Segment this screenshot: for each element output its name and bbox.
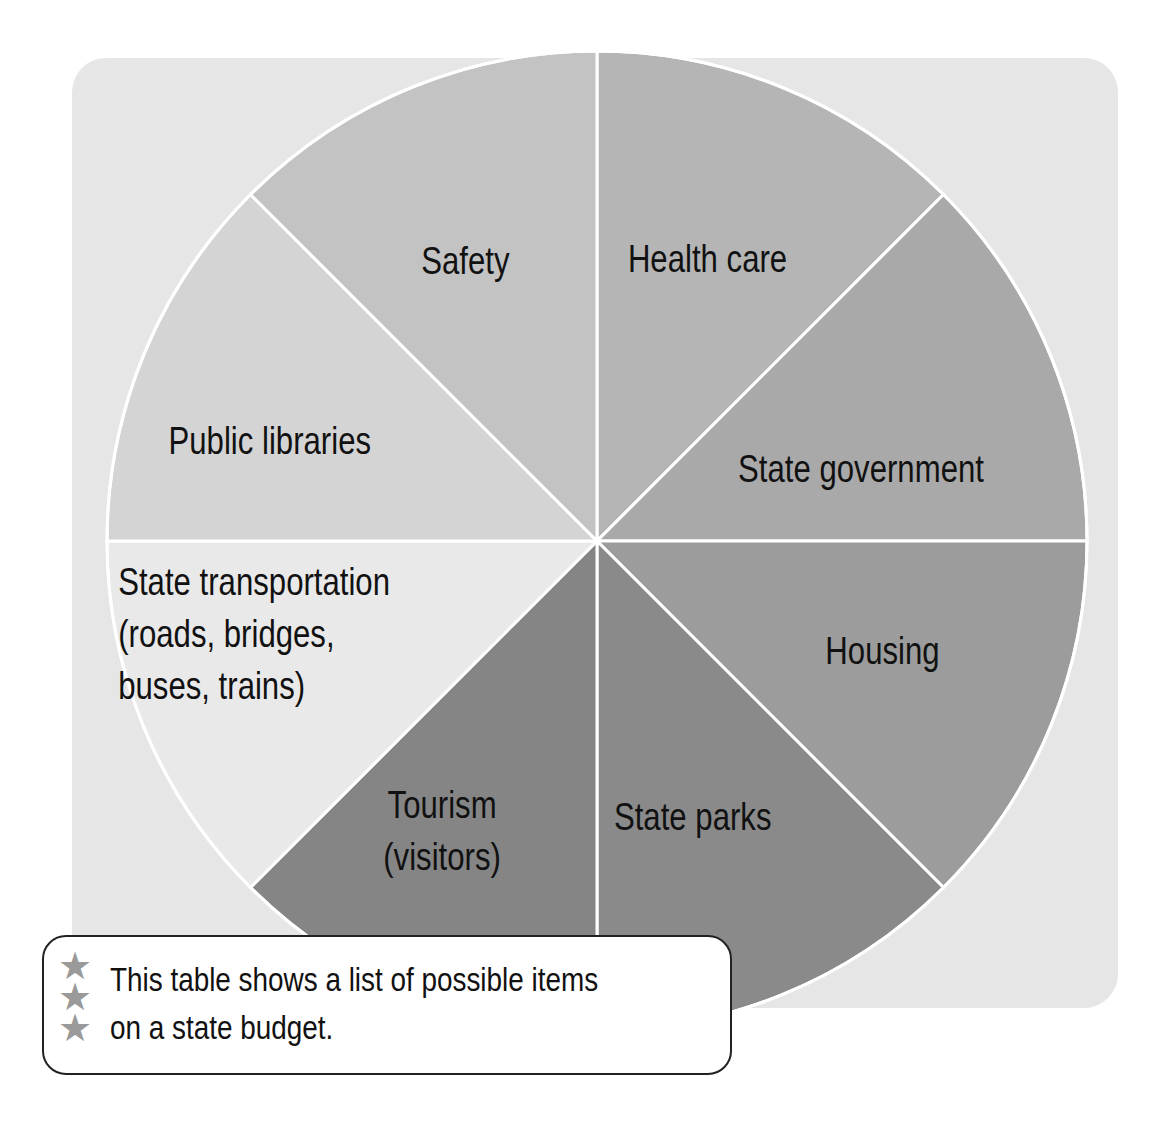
star-icon: ★ [58,1013,98,1044]
slice-label-line: Housing [825,630,939,672]
slice-label-line: (roads, bridges, [118,613,334,655]
caption-text: This table shows a list of possible item… [110,955,598,1051]
slice-label-line: Tourism [388,784,497,826]
slice-label-line: (visitors) [383,836,501,878]
slice-label: Safety [421,240,510,282]
slice-label-line: buses, trains) [118,665,305,707]
slice-label-line: State transportation [118,561,390,603]
slice-label: State government [738,448,984,490]
slice-label-line: State parks [614,796,772,838]
slice-label: State parks [614,796,772,838]
slice-label-line: State government [738,448,984,490]
pie-slices [107,51,1087,1031]
star-icons: ★ ★ ★ [58,951,98,1044]
slice-label-line: Public libraries [169,420,372,462]
slice-label: Health care [628,238,787,280]
caption-line: on a state budget. [110,1003,598,1051]
slice-label-line: Safety [421,240,510,282]
slice-label: Housing [825,630,939,672]
slice-label-line: Health care [628,238,787,280]
caption-box: ★ ★ ★ This table shows a list of possibl… [42,935,732,1075]
caption-line: This table shows a list of possible item… [110,955,598,1003]
slice-label: Public libraries [169,420,372,462]
